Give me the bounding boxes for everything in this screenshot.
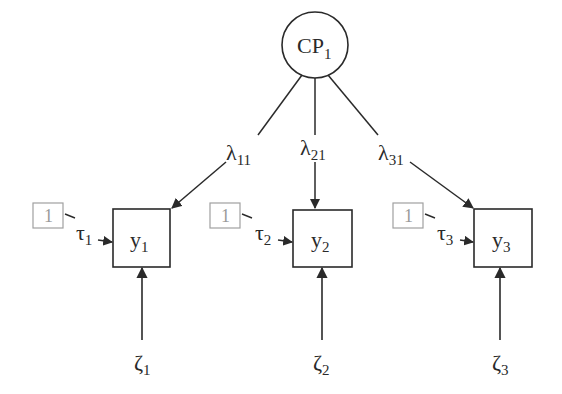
loading-path-y3: λ31 [328, 75, 473, 208]
constant-y1: 1 τ1 [33, 203, 112, 248]
svg-text:ζ3: ζ3 [492, 350, 509, 378]
residual-y1: ζ1 [134, 268, 151, 378]
constant-y3: 1 τ3 [393, 203, 473, 248]
svg-text:1: 1 [404, 206, 413, 226]
indicator-y3: y3 [474, 209, 532, 267]
indicator-y1: y1 [113, 209, 170, 267]
latent-factor-cp1: CP1 [282, 12, 348, 78]
intercept-label-t1: τ1 [76, 220, 92, 248]
loading-label-l11: λ11 [226, 140, 251, 168]
residual-y2: ζ2 [313, 268, 330, 378]
svg-text:ζ2: ζ2 [313, 350, 330, 378]
svg-text:1: 1 [44, 206, 53, 226]
indicator-y2: y2 [293, 210, 352, 267]
residual-y3: ζ3 [492, 268, 509, 378]
intercept-label-t2: τ2 [255, 220, 271, 248]
loading-label-l21: λ21 [300, 135, 326, 163]
svg-text:ζ1: ζ1 [134, 350, 151, 378]
sem-diagram: CP1 λ11 λ21 λ31 y1 y2 y3 1 τ1 1 [0, 0, 562, 394]
loading-path-y1: λ11 [172, 75, 302, 208]
intercept-label-t3: τ3 [437, 220, 453, 248]
svg-text:1: 1 [221, 206, 230, 226]
loading-path-y2: λ21 [300, 78, 326, 208]
loading-label-l31: λ31 [378, 140, 404, 168]
constant-y2: 1 τ2 [210, 203, 292, 248]
